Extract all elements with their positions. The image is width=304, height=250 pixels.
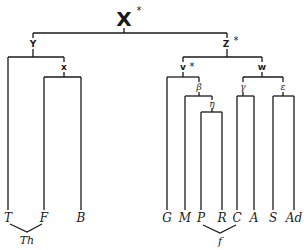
node-Z: Z <box>223 39 230 49</box>
node-w: w <box>258 62 266 72</box>
node-x: x <box>61 62 67 72</box>
node-eta: η <box>209 99 215 109</box>
leaf-A: A <box>249 211 259 225</box>
node-v: v <box>180 62 186 72</box>
leaf-M: M <box>178 211 192 225</box>
node-X: X <box>116 7 132 31</box>
node-v-mark: * <box>190 61 195 72</box>
leaf-T: T <box>4 211 13 225</box>
leaf-P: P <box>196 211 206 225</box>
leaf-S: S <box>269 211 277 225</box>
leaf-G: G <box>162 211 172 225</box>
node-X-mark: * <box>137 5 142 16</box>
stemma-diagram: X * Y x Z * v * β η w γ ε T F <box>0 0 304 250</box>
contamination-Th-lines <box>10 224 42 232</box>
node-Y: Y <box>29 39 37 49</box>
leaf-F: F <box>39 211 49 225</box>
leaf-Ad: Ad <box>285 211 303 225</box>
contamination-f-lines <box>203 225 236 233</box>
contamination-Th: Th <box>20 234 34 247</box>
leaf-C: C <box>232 211 241 225</box>
contamination-f: f <box>217 235 224 248</box>
leaf-R: R <box>216 211 226 225</box>
leaf-B: B <box>76 211 86 225</box>
node-beta: β <box>195 82 201 92</box>
node-Z-mark: * <box>234 35 239 46</box>
node-gamma: γ <box>240 82 246 92</box>
node-epsilon: ε <box>281 82 286 92</box>
